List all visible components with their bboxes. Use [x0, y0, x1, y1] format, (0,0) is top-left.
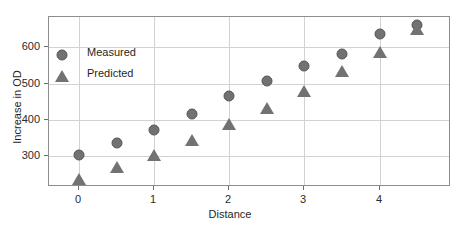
data-point-measured: [186, 109, 197, 120]
y-tick: [44, 119, 48, 120]
data-point-measured: [111, 138, 122, 149]
data-point-predicted: [260, 102, 274, 114]
data-point-predicted: [373, 46, 387, 58]
x-tick: [303, 186, 304, 190]
x-tick: [379, 186, 380, 190]
x-tick: [228, 186, 229, 190]
data-point-predicted: [410, 23, 424, 35]
data-point-measured: [149, 124, 160, 135]
gridline-vertical: [380, 17, 381, 185]
chart-screenshot: 01234300400500600 MeasuredPredicted Dist…: [0, 0, 460, 231]
data-point-measured: [337, 49, 348, 60]
legend-label: Measured: [87, 46, 136, 58]
y-axis-label: Increase in OD: [11, 47, 23, 167]
y-tick: [44, 155, 48, 156]
data-point-predicted: [185, 134, 199, 146]
x-tick-label: 0: [75, 193, 81, 205]
legend-label: Predicted: [87, 67, 133, 79]
data-point-measured: [374, 29, 385, 40]
data-point-predicted: [72, 173, 86, 185]
x-tick: [78, 186, 79, 190]
legend-triangle-icon: [55, 70, 69, 82]
gridline-vertical: [304, 17, 305, 185]
data-point-predicted: [222, 118, 236, 130]
data-point-measured: [224, 90, 235, 101]
gridline-horizontal: [49, 120, 449, 121]
gridline-horizontal: [49, 84, 449, 85]
x-tick-label: 4: [376, 193, 382, 205]
data-point-predicted: [147, 149, 161, 161]
gridline-horizontal: [49, 156, 449, 157]
x-tick-label: 3: [300, 193, 306, 205]
plot-area: [49, 17, 449, 185]
legend-circle-icon: [57, 50, 68, 61]
x-tick-label: 2: [225, 193, 231, 205]
data-point-predicted: [335, 65, 349, 77]
x-tick-label: 1: [150, 193, 156, 205]
plot-frame: [48, 16, 450, 186]
data-point-measured: [299, 61, 310, 72]
y-tick: [44, 46, 48, 47]
x-tick: [153, 186, 154, 190]
x-axis-label: Distance: [0, 208, 460, 220]
data-point-measured: [74, 150, 85, 161]
data-point-predicted: [110, 161, 124, 173]
data-point-measured: [261, 76, 272, 87]
data-point-predicted: [297, 85, 311, 97]
y-tick: [44, 83, 48, 84]
